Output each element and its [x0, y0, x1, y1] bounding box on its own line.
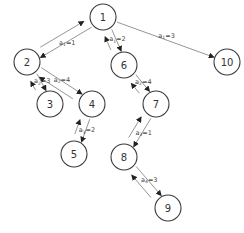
- node-label: 9: [165, 203, 171, 214]
- edge-8-9: a4=3: [132, 166, 161, 197]
- node-label: 4: [89, 99, 95, 110]
- node-3: 3: [37, 91, 63, 117]
- node-2: 2: [14, 49, 40, 75]
- node-5: 5: [61, 141, 87, 167]
- node-label: 1: [100, 12, 106, 23]
- node-8: 8: [111, 144, 137, 170]
- edge-label: a1=1: [59, 39, 75, 48]
- edge-label: a1=3: [158, 32, 174, 41]
- edge-label: a4=3: [141, 176, 157, 185]
- edge-1-6: a1=2: [105, 30, 125, 51]
- node-label: 8: [121, 152, 127, 163]
- node-label: 3: [47, 99, 53, 110]
- node-6: 6: [111, 52, 137, 78]
- edge-label: a2=3: [34, 77, 50, 86]
- node-label: 6: [121, 60, 127, 71]
- tree-diagram: a1=1a2=3a2=4a3=2a1=2a1=3a2=4a3=1a4=3 123…: [0, 0, 244, 233]
- edge-4-5: a3=2: [75, 119, 95, 142]
- node-7: 7: [143, 91, 169, 117]
- edge-7-8: a3=1: [129, 117, 152, 146]
- edge-label: a3=1: [135, 129, 151, 138]
- edge-label: a2=4: [54, 76, 70, 85]
- node-label: 5: [71, 149, 77, 160]
- edge-label: a2=4: [135, 78, 151, 87]
- edge-1-10: a1=3: [117, 22, 214, 57]
- edge-label: a1=2: [109, 35, 125, 44]
- edge-1-2: a1=1: [40, 22, 91, 58]
- node-1: 1: [90, 4, 116, 30]
- edge-6-7: a2=4: [131, 75, 151, 93]
- node-4: 4: [79, 91, 105, 117]
- node-10: 10: [214, 49, 240, 75]
- node-label: 2: [24, 57, 30, 68]
- node-label: 10: [221, 57, 234, 68]
- edge-label: a3=2: [79, 126, 95, 135]
- node-9: 9: [155, 195, 181, 221]
- node-label: 7: [153, 99, 159, 110]
- nodes-layer: 12345678910: [14, 4, 240, 221]
